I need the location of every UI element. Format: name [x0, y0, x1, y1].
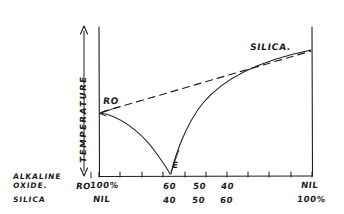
- row-title-alkaline-oxide-line1: ALKALINE: [12, 172, 61, 181]
- x-label-silica-left: NIL: [92, 194, 111, 204]
- row-title-alkaline-oxide-line2: OXIDE.: [12, 181, 47, 190]
- silica-point-label: SILICA.: [249, 42, 291, 52]
- eutectic-point-label: E: [171, 160, 179, 170]
- row-title-silica: SILICA: [12, 195, 46, 204]
- y-axis-line: [99, 27, 100, 176]
- ro-point-label: RO: [102, 96, 119, 106]
- x-label-silica-right: 100%: [296, 194, 326, 204]
- x-label-alkaline-mid-0: 60: [162, 181, 176, 191]
- x-label-alkaline-mid-1: 50: [192, 181, 206, 191]
- x-label-silica-mid-1: 50: [191, 195, 205, 205]
- x-label-silica-mid-0: 40: [162, 195, 176, 205]
- x-label-alkaline-left: 100%: [89, 180, 119, 190]
- y-axis-title: TEMPERATURE: [78, 75, 88, 163]
- x-label-alkaline-right: NIL: [300, 180, 319, 190]
- right-axis-line: [312, 27, 313, 176]
- x-label-alkaline-mid-2: 40: [220, 181, 234, 191]
- liquidus-left-branch: [100, 113, 170, 174]
- liquidus-right-branch: [171, 50, 311, 174]
- phase-diagram-figure: TEMPERATURE RO SILICA. E ALKALINE OXIDE.…: [0, 0, 344, 214]
- x-label-silica-mid-2: 60: [219, 195, 233, 205]
- ideal-mixing-dashed-line: [102, 51, 311, 112]
